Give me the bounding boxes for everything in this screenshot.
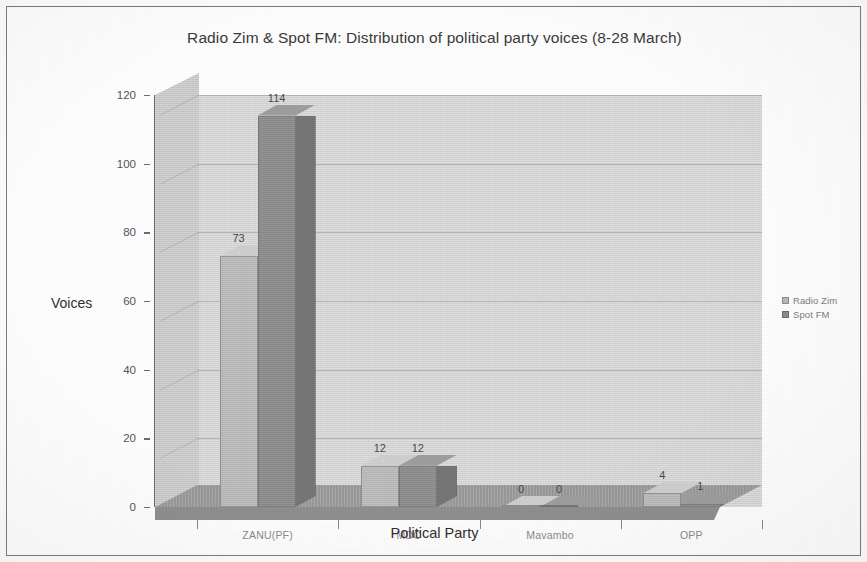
chart-legend: Radio ZimSpot FM [782, 295, 860, 323]
y-axis-tick: 80 [144, 232, 150, 233]
y-axis-tick-label: 40 [123, 364, 136, 376]
legend-swatch-icon [782, 297, 789, 304]
scanned-page: Radio Zim & Spot FM: Distribution of pol… [0, 0, 867, 562]
bar-face-front [540, 505, 578, 507]
y-axis-tick: 100 [144, 164, 150, 165]
bar-value-label: 114 [268, 92, 286, 104]
bar-value-label: 0 [518, 483, 524, 495]
y-axis-title: Voices [51, 295, 92, 311]
chart-figure: Radio Zim & Spot FM: Distribution of pol… [7, 7, 862, 557]
plot-floor-front-edge [155, 507, 720, 520]
legend-swatch-icon [782, 311, 789, 318]
bar-value-label: 1 [697, 480, 703, 492]
bar-value-label: 73 [233, 232, 245, 244]
y-axis-tick-label: 20 [123, 432, 136, 444]
legend-label: Spot FM [793, 309, 830, 320]
bar-column: 73 [220, 256, 258, 507]
bar-face-front [681, 504, 719, 507]
y-axis-tick: 120 [144, 95, 150, 96]
bar-face-front [258, 116, 296, 507]
y-axis-tick-label: 0 [130, 501, 136, 513]
bar-face-side [296, 116, 316, 507]
bar-value-label: 0 [556, 483, 562, 495]
bar-face-front [399, 466, 437, 507]
bar-face-front [361, 466, 399, 507]
bar-face-front [643, 493, 681, 507]
bar-value-label: 12 [374, 442, 386, 454]
bar-column: 114 [258, 116, 296, 507]
y-axis-tick-label: 100 [117, 158, 136, 170]
bar-column: 1 [681, 504, 719, 507]
y-axis-tick: 60 [144, 301, 150, 302]
y-axis-tick: 20 [144, 438, 150, 439]
y-axis-tick-label: 60 [123, 295, 136, 307]
legend-label: Radio Zim [793, 295, 837, 306]
bar-value-label: 4 [659, 469, 665, 481]
legend-item: Radio Zim [782, 295, 860, 306]
plot-area: 020406080100120 7311412120041 ZANU(PF)MD… [149, 73, 769, 513]
y-axis-tick-label: 80 [123, 226, 136, 238]
chart-title: Radio Zim & Spot FM: Distribution of pol… [7, 29, 862, 47]
bar-face-front [220, 256, 258, 507]
chart-frame-border: Radio Zim & Spot FM: Distribution of pol… [6, 6, 861, 556]
bar-face-front [502, 505, 540, 507]
y-axis-line [154, 95, 155, 507]
bar-column: 12 [399, 466, 437, 507]
y-axis-tick-label: 120 [117, 89, 136, 101]
y-axis-tick: 40 [144, 370, 150, 371]
y-axis-tick: 0 [144, 507, 150, 508]
bar-column: 4 [643, 493, 681, 507]
bar-value-label: 12 [412, 442, 424, 454]
legend-item: Spot FM [782, 309, 860, 320]
bar-column: 12 [361, 466, 399, 507]
x-axis-title: Political Party [7, 525, 862, 541]
